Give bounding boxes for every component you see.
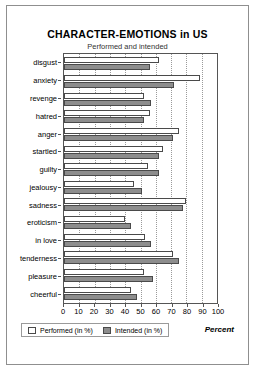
y-axis-tick (58, 187, 61, 188)
y-axis-label: anxiety (7, 72, 61, 90)
chart-figure: CHARACTER-EMOTIONS in US Performed and i… (6, 5, 249, 365)
y-axis-tick (58, 116, 61, 117)
bar-intended (64, 258, 179, 264)
legend-label: Performed (in %) (40, 327, 93, 334)
y-axis-tick (58, 276, 61, 277)
y-axis-tick (58, 169, 61, 170)
bar-group (64, 108, 217, 126)
bar-group (64, 178, 217, 196)
y-axis-label: guilty (7, 161, 61, 179)
x-axis-tick-labels: 0102030405060708090100 (63, 307, 218, 319)
bar-intended (64, 223, 131, 229)
legend-entry[interactable]: Performed (in %) (28, 327, 93, 334)
y-axis-label: in love (7, 232, 61, 250)
chart-legend: Performed (in %)Intended (in %) (21, 323, 169, 337)
legend-entry[interactable]: Intended (in %) (103, 327, 162, 334)
bar-group (64, 55, 217, 73)
plot-area (63, 53, 218, 304)
y-axis-label: startled (7, 143, 61, 161)
x-axis-tick-label: 50 (136, 307, 144, 316)
legend-swatch-performed (28, 327, 36, 334)
bar-group (64, 214, 217, 232)
x-axis-tick-label: 10 (74, 307, 82, 316)
x-axis-tick-label: 80 (183, 307, 191, 316)
y-axis-label: hatred (7, 107, 61, 125)
chart-subtitle: Performed and intended (7, 42, 248, 51)
y-axis-tick (58, 240, 61, 241)
bar-intended (64, 188, 142, 194)
y-axis-tick (58, 134, 61, 135)
bar-group (64, 284, 217, 302)
bar-group (64, 196, 217, 214)
y-axis-label: pleasure (7, 267, 61, 285)
bar-group (64, 231, 217, 249)
bar-intended (64, 276, 153, 282)
chart-title: CHARACTER-EMOTIONS in US (7, 28, 248, 40)
bar-group (64, 73, 217, 91)
y-axis-tick (58, 98, 61, 99)
x-axis-tick-label: 60 (152, 307, 160, 316)
bar-intended (64, 117, 144, 123)
y-axis-label: cheerful (7, 285, 61, 303)
bar-intended (64, 135, 173, 141)
y-axis-label: tenderness (7, 250, 61, 268)
bar-group (64, 267, 217, 285)
bar-group (64, 143, 217, 161)
x-axis-tick-label: 20 (90, 307, 98, 316)
bar-intended (64, 100, 151, 106)
y-axis-tick (58, 294, 61, 295)
bar-group (64, 126, 217, 144)
bar-rows (64, 54, 217, 303)
y-axis-label: jealousy (7, 178, 61, 196)
x-axis-tick-label: 40 (121, 307, 129, 316)
y-axis-labels: disgustanxietyrevengehatredangerstartled… (7, 53, 61, 304)
bar-intended (64, 241, 151, 247)
y-axis-tick (58, 222, 61, 223)
bar-intended (64, 294, 137, 300)
legend-swatch-intended (103, 327, 111, 334)
x-axis-tick-label: 90 (198, 307, 206, 316)
x-axis-tick-label: 100 (212, 307, 225, 316)
y-axis-label: disgust (7, 54, 61, 72)
legend-label: Intended (in %) (115, 327, 162, 334)
y-axis-label: revenge (7, 90, 61, 108)
y-axis-tick (58, 80, 61, 81)
bar-intended (64, 205, 183, 211)
y-axis-tick (58, 205, 61, 206)
y-axis-tick (58, 151, 61, 152)
y-axis-tick (58, 258, 61, 259)
bar-intended (64, 153, 159, 159)
y-axis-tick (58, 62, 61, 63)
bar-group (64, 161, 217, 179)
x-axis-tick-label: 0 (61, 307, 65, 316)
x-axis-tick-label: 70 (167, 307, 175, 316)
x-axis-tick-label: 30 (105, 307, 113, 316)
bar-intended (64, 64, 150, 70)
y-axis-label: anger (7, 125, 61, 143)
y-axis-label: sadness (7, 196, 61, 214)
bar-intended (64, 170, 159, 176)
bar-group (64, 90, 217, 108)
y-axis-label: eroticism (7, 214, 61, 232)
x-axis-title: Percent (205, 325, 234, 334)
bar-group (64, 249, 217, 267)
bar-intended (64, 82, 174, 88)
